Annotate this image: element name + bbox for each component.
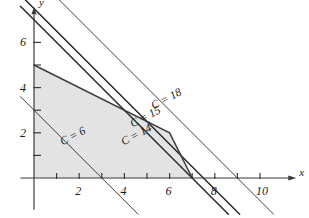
y-tick-label-6: 6 [20,36,26,48]
y-tick-label-2: 2 [20,127,26,139]
feasible-region-layer [34,65,192,178]
feasible-region-polygon [34,65,192,178]
x-tick-label-8: 8 [211,185,217,197]
x-tick-label-4: 4 [120,185,126,197]
y-tick-label-4: 4 [20,82,26,94]
x-axis-label: x [299,167,304,178]
x-tick-label-6: 6 [166,185,172,197]
linear-programming-figure: 246810246 x y C = 18 C = 15 C = 14 C = 6 [0,0,309,218]
y-axis-label: y [39,0,44,8]
x-axis-arrow [288,175,296,180]
x-tick-label-10: 10 [256,185,268,197]
x-tick-label-2: 2 [75,185,81,197]
